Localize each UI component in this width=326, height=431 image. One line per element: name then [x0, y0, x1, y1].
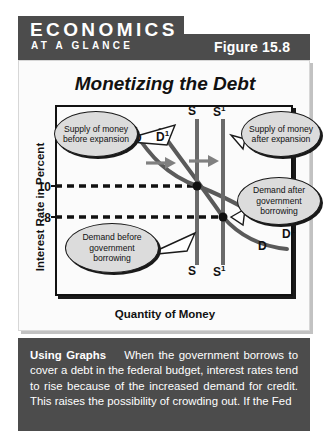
plot-area: 10 8: [55, 105, 293, 296]
y-tick-10: 10: [38, 181, 51, 193]
equilibrium-dot-1: [193, 182, 202, 191]
brand-title: ECONOMICS: [30, 19, 178, 40]
figure-caption: Using Graphs When the government borrows…: [18, 338, 310, 431]
label-D1-top: D1: [156, 130, 169, 143]
callout-supply-after: Supply of money after expansion: [241, 111, 321, 157]
label-S-top: S: [188, 105, 196, 117]
supply-shift-arrow: [189, 155, 219, 167]
x-axis-label: Quantity of Money: [19, 308, 311, 320]
figure-panel: Monetizing the Debt Interest Rate in Per…: [18, 60, 310, 331]
label-D-right: D: [258, 240, 267, 252]
brand-subtitle: AT A GLANCE: [31, 40, 133, 52]
callout-demand-before: Demand before government borrowing: [65, 223, 159, 273]
page-title: Monetizing the Debt: [19, 73, 311, 95]
label-S-bottom: S: [188, 265, 196, 277]
callout-supply-before: Supply of money before expansion: [54, 111, 138, 157]
figure-number: Figure 15.8: [214, 39, 290, 55]
label-S1-top: S1: [213, 105, 225, 118]
economics-at-a-glance-banner: ECONOMICS AT A GLANCE Figure 15.8: [18, 16, 310, 60]
y-tick-8: 8: [44, 212, 51, 224]
label-D1-right: D1: [282, 227, 295, 240]
equilibrium-dot-2: [219, 213, 228, 222]
y-axis-label: Interest Rate in Percent: [34, 122, 46, 292]
callout-demand-after: Demand after government borrowing: [237, 177, 321, 225]
demand-shift-arrow: [146, 157, 176, 169]
caption-lead: Using Graphs: [30, 349, 106, 361]
figure-page: ECONOMICS AT A GLANCE Figure 15.8 Moneti…: [0, 0, 326, 431]
label-S1-bottom: S1: [213, 265, 225, 278]
